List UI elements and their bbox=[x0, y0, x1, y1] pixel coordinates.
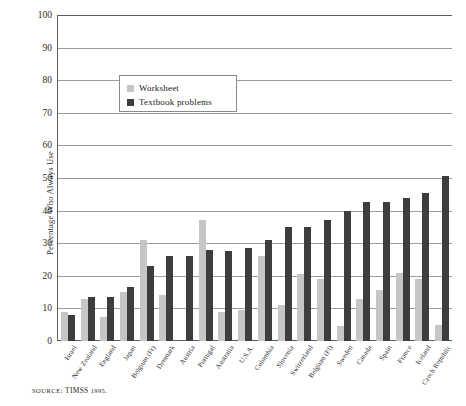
bar-textbook-problems bbox=[442, 176, 449, 341]
legend-swatch-icon-textbook-problems bbox=[127, 99, 134, 106]
bar-textbook-problems bbox=[324, 220, 331, 341]
y-axis-tick-labels: 1009080706050403020100 bbox=[20, 15, 52, 341]
bar-textbook-problems bbox=[422, 193, 429, 341]
bar-group bbox=[294, 15, 314, 341]
x-tick-label: England bbox=[98, 344, 118, 368]
y-tick-label: 70 bbox=[43, 108, 53, 118]
bar-textbook-problems bbox=[344, 211, 351, 341]
y-tick-label: 80 bbox=[43, 75, 53, 85]
y-tick-label: 0 bbox=[47, 336, 52, 346]
bar-groups bbox=[58, 15, 452, 341]
legend-swatch-icon-worksheet bbox=[127, 85, 134, 92]
legend-label-worksheet: Worksheet bbox=[139, 83, 179, 93]
bar-group bbox=[157, 15, 177, 341]
source-name: TIMSS bbox=[65, 386, 89, 395]
bar-worksheet bbox=[258, 256, 265, 341]
x-tick-label: Colombia bbox=[253, 344, 276, 372]
bar-textbook-problems bbox=[88, 297, 95, 341]
bar-textbook-problems bbox=[265, 240, 272, 341]
bar-worksheet bbox=[120, 292, 127, 341]
bar-group bbox=[117, 15, 137, 341]
y-tick-label: 10 bbox=[43, 303, 53, 313]
bar-worksheet bbox=[415, 279, 422, 341]
bar-textbook-problems bbox=[225, 251, 232, 341]
bar-group bbox=[393, 15, 413, 341]
x-tick-label: Japan bbox=[122, 344, 138, 362]
bar-worksheet bbox=[356, 299, 363, 341]
bar-group bbox=[235, 15, 255, 341]
x-tick-label: Australia bbox=[215, 344, 236, 370]
y-tick-label: 100 bbox=[38, 10, 52, 20]
x-tick-label: Canada bbox=[355, 344, 374, 366]
bar-group bbox=[354, 15, 374, 341]
bar-worksheet bbox=[396, 273, 403, 341]
bar-group bbox=[97, 15, 117, 341]
bar-worksheet bbox=[81, 299, 88, 341]
bar-group bbox=[137, 15, 157, 341]
source-note: SOURCE: TIMSS 1995. bbox=[32, 386, 107, 395]
bar-textbook-problems bbox=[186, 256, 193, 341]
chart-legend: Worksheet Textbook problems bbox=[119, 75, 237, 112]
bar-worksheet bbox=[218, 312, 225, 341]
bar-textbook-problems bbox=[206, 250, 213, 341]
bar-group bbox=[216, 15, 236, 341]
bar-textbook-problems bbox=[304, 227, 311, 341]
bar-worksheet bbox=[376, 290, 383, 341]
bar-group bbox=[58, 15, 78, 341]
bar-group bbox=[78, 15, 98, 341]
bar-worksheet bbox=[100, 317, 107, 341]
bar-worksheet bbox=[199, 220, 206, 341]
x-tick-label: France bbox=[396, 344, 414, 365]
bar-group bbox=[196, 15, 216, 341]
x-tick-label: Sweden bbox=[335, 344, 354, 367]
bar-worksheet bbox=[278, 305, 285, 341]
bar-group bbox=[176, 15, 196, 341]
bar-worksheet bbox=[140, 240, 147, 341]
y-tick-label: 50 bbox=[43, 173, 53, 183]
bar-textbook-problems bbox=[147, 266, 154, 341]
bar-textbook-problems bbox=[166, 256, 173, 341]
x-tick-label: U.S.A. bbox=[238, 344, 256, 365]
bar-group bbox=[334, 15, 354, 341]
bar-textbook-problems bbox=[107, 297, 114, 341]
bar-group bbox=[413, 15, 433, 341]
bar-group bbox=[314, 15, 334, 341]
bar-textbook-problems bbox=[285, 227, 292, 341]
y-tick-label: 60 bbox=[43, 140, 53, 150]
x-tick-label: Iceland bbox=[415, 344, 434, 366]
bar-worksheet bbox=[159, 295, 166, 341]
bar-worksheet bbox=[297, 274, 304, 341]
bar-worksheet bbox=[337, 326, 344, 341]
bar-textbook-problems bbox=[383, 202, 390, 341]
bar-worksheet bbox=[61, 312, 68, 341]
bar-worksheet bbox=[317, 279, 324, 341]
bar-group bbox=[255, 15, 275, 341]
bar-textbook-problems bbox=[403, 198, 410, 341]
bar-textbook-problems bbox=[363, 202, 370, 341]
bar-chart: Percentage Who Always Use 10090807060504… bbox=[0, 0, 466, 406]
x-tick-label: Israel bbox=[63, 344, 79, 362]
bar-worksheet bbox=[238, 310, 245, 341]
bar-textbook-problems bbox=[68, 315, 75, 341]
bar-textbook-problems bbox=[127, 287, 134, 341]
bar-group bbox=[373, 15, 393, 341]
y-tick-label: 40 bbox=[43, 206, 53, 216]
bar-textbook-problems bbox=[245, 248, 252, 341]
bar-worksheet bbox=[435, 325, 442, 341]
bar-group bbox=[275, 15, 295, 341]
y-tick-label: 20 bbox=[43, 271, 53, 281]
x-tick-label: Spain bbox=[378, 344, 394, 362]
source-prefix: SOURCE: bbox=[32, 387, 63, 394]
bar-group bbox=[432, 15, 452, 341]
legend-item-textbook-problems: Textbook problems bbox=[127, 95, 229, 109]
y-tick-label: 30 bbox=[43, 238, 53, 248]
x-tick-label: Austria bbox=[178, 344, 197, 366]
source-year: 1995. bbox=[91, 387, 107, 394]
legend-label-textbook-problems: Textbook problems bbox=[139, 97, 212, 107]
x-tick-label: Denmark bbox=[155, 344, 177, 371]
x-axis-tick-labels: IsraelNew ZealandEnglandJapanBelgium (Fr… bbox=[58, 344, 452, 404]
y-tick-label: 90 bbox=[43, 43, 53, 53]
legend-item-worksheet: Worksheet bbox=[127, 81, 229, 95]
